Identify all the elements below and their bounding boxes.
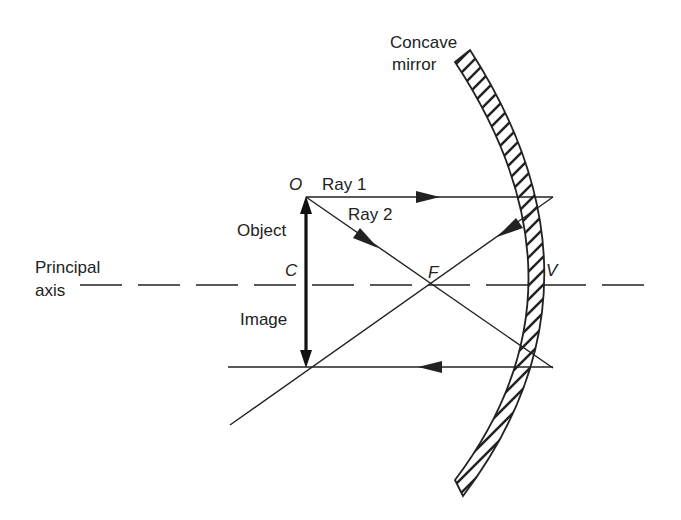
principal-axis-label-line1: Principal	[35, 258, 100, 277]
ray-2-arrow-icon	[353, 228, 378, 248]
point-o-label: O	[289, 175, 302, 194]
concave-mirror-diagram: Concave mirror O Ray 1 Ray 2 Object C Im…	[0, 0, 681, 520]
mirror-label-line2: mirror	[392, 55, 437, 74]
ray-1-arrow-icon	[416, 191, 440, 203]
principal-axis-label-line2: axis	[35, 281, 65, 300]
object-arrowhead-icon	[300, 196, 312, 214]
mirror-label-line1: Concave	[390, 33, 457, 52]
point-c-label: C	[285, 261, 298, 280]
ray-1-label: Ray 1	[322, 175, 366, 194]
ray-2-reflected-arrow-icon	[418, 361, 442, 373]
image-label: Image	[240, 310, 287, 329]
concave-mirror	[440, 26, 640, 514]
ray-2-label: Ray 2	[348, 205, 392, 224]
point-f-label: F	[428, 263, 440, 282]
image-arrowhead-icon	[300, 350, 312, 368]
object-label: Object	[237, 221, 286, 240]
point-v-label: V	[546, 261, 559, 280]
